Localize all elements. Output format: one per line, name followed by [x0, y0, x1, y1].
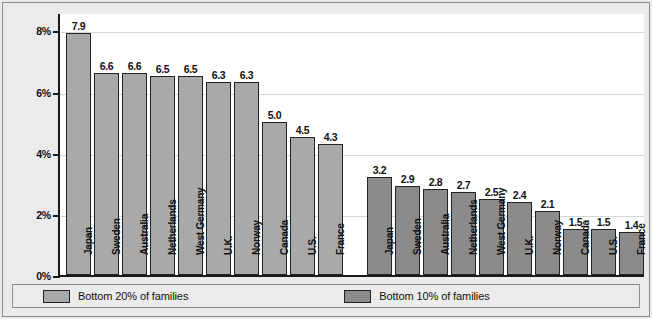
- bar-value-label: 4.3: [324, 131, 338, 143]
- bar: 6.3U.K.: [206, 82, 231, 275]
- bar-value-label: 2.7: [457, 179, 471, 191]
- legend-label-bottom-10: Bottom 10% of families: [379, 290, 489, 302]
- y-axis-tick-label: 4%: [5, 148, 51, 160]
- bar-value-label: 4.5: [296, 124, 310, 136]
- bar-category-label: West Germany: [496, 188, 507, 255]
- bar-category-label: Canada: [580, 220, 591, 255]
- bar-category-label: Netherlands: [167, 199, 178, 255]
- bar: 2.7Netherlands: [451, 192, 476, 275]
- bar-category-label: U.K.: [223, 236, 234, 255]
- bar: 2.1Norway: [535, 211, 560, 275]
- bar: 1.5U.S.: [591, 229, 616, 275]
- bar-value-label: 1.5: [597, 216, 611, 228]
- bar-category-label: U.S.: [307, 236, 318, 255]
- y-axis-tick: [53, 276, 60, 278]
- bar-value-label: 2.8: [429, 176, 443, 188]
- bar: 6.5Netherlands: [150, 76, 175, 275]
- bar-value-label: 3.2: [373, 164, 387, 176]
- y-axis-tick-label: 6%: [5, 87, 51, 99]
- y-axis-tick: [53, 215, 60, 217]
- bar-category-label: Norway: [251, 220, 262, 255]
- chart-legend: Bottom 20% of families Bottom 10% of fam…: [12, 284, 640, 308]
- bar-value-label: 6.3: [212, 69, 226, 81]
- y-axis-tick-label: 0%: [5, 270, 51, 282]
- legend-swatch-bottom-20: [43, 290, 70, 303]
- bar: 4.5U.S.: [290, 137, 315, 275]
- legend-entry-bottom-10: Bottom 10% of families: [344, 290, 489, 303]
- y-axis-tick-label: 8%: [5, 25, 51, 37]
- bar-value-label: 7.9: [72, 20, 86, 32]
- bar-category-label: U.S.: [608, 236, 619, 255]
- bar-category-label: France: [636, 223, 647, 255]
- plot-area: 7.9Japan6.6Sweden6.6Australia6.5Netherla…: [58, 14, 644, 277]
- bar-value-label: 5.0: [268, 109, 282, 121]
- bar-category-label: Norway: [552, 220, 563, 255]
- bar-category-label: U.K.: [524, 236, 535, 255]
- gridline: [60, 155, 644, 156]
- y-axis-tick-label: 2%: [5, 209, 51, 221]
- bar: 5.0Canada: [262, 122, 287, 275]
- bar: 3.2Japan: [367, 177, 392, 275]
- bar-category-label: Japan: [384, 227, 395, 255]
- bar: 2.8Australia: [423, 189, 448, 275]
- chart-figure: 0%2%4%6%8% 7.9Japan6.6Sweden6.6Australia…: [0, 0, 652, 319]
- bar-category-label: Canada: [279, 220, 290, 255]
- gridline: [60, 32, 644, 33]
- y-axis-tick: [53, 31, 60, 33]
- y-axis: 0%2%4%6%8%: [0, 14, 51, 277]
- bar-category-label: Sweden: [412, 218, 423, 255]
- bar: 6.3Norway: [234, 82, 259, 275]
- legend-label-bottom-20: Bottom 20% of families: [78, 290, 188, 302]
- bar: 2.5West Germany: [479, 199, 504, 275]
- bar-value-label: 6.5: [184, 63, 198, 75]
- bar: 4.3France: [318, 144, 343, 276]
- bar-value-label: 6.6: [128, 60, 142, 72]
- bar-category-label: West Germany: [195, 188, 206, 255]
- bar-category-label: Japan: [83, 227, 94, 255]
- bar-value-label: 6.6: [100, 60, 114, 72]
- bar: 2.9Sweden: [395, 186, 420, 275]
- bar-value-label: 6.3: [240, 69, 254, 81]
- bar: 6.6Australia: [122, 73, 147, 275]
- bar-category-label: France: [335, 223, 346, 255]
- bar-value-label: 2.9: [401, 173, 415, 185]
- bar-category-label: Australia: [139, 214, 150, 255]
- bar: 1.4France: [619, 232, 644, 275]
- bar: 1.5Canada: [563, 229, 588, 275]
- y-axis-tick: [53, 93, 60, 95]
- gridline: [60, 94, 644, 95]
- bar-value-label: 2.1: [541, 198, 555, 210]
- legend-entry-bottom-20: Bottom 20% of families: [43, 290, 188, 303]
- bar-category-label: Sweden: [111, 218, 122, 255]
- bar-category-label: Australia: [440, 214, 451, 255]
- legend-swatch-bottom-10: [344, 290, 371, 303]
- bar-value-label: 2.4: [513, 189, 527, 201]
- bar: 6.6Sweden: [94, 73, 119, 275]
- bar: 6.5West Germany: [178, 76, 203, 275]
- bar: 7.9Japan: [66, 33, 91, 275]
- y-axis-tick: [53, 154, 60, 156]
- bar-category-label: Netherlands: [468, 199, 479, 255]
- bar-value-label: 6.5: [156, 63, 170, 75]
- bar: 2.4U.K.: [507, 202, 532, 275]
